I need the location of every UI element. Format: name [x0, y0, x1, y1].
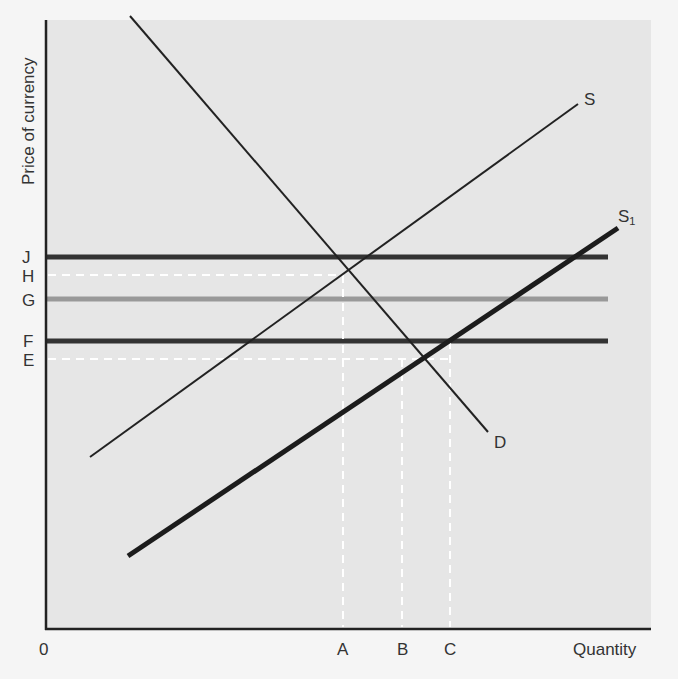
y-axis-label: Price of currency	[19, 57, 38, 185]
exchange-rate-diagram: Price of currency Quantity 0 A B C J H G…	[0, 0, 678, 679]
origin-label: 0	[39, 640, 48, 659]
y-tick-g: G	[22, 291, 35, 310]
x-tick-a: A	[337, 640, 349, 659]
y-tick-j: J	[22, 248, 31, 267]
y-tick-e: E	[23, 351, 34, 370]
x-tick-b: B	[397, 640, 408, 659]
y-tick-h: H	[22, 267, 34, 286]
x-axis-label: Quantity	[573, 640, 637, 659]
curve-label-s1-sub: 1	[629, 215, 635, 227]
curve-label-s: S	[584, 90, 595, 109]
plot-area	[46, 20, 651, 629]
x-tick-c: C	[444, 640, 456, 659]
curve-label-d: D	[494, 433, 506, 452]
y-tick-f: F	[23, 332, 33, 351]
curve-label-s1-main: S	[618, 207, 629, 226]
